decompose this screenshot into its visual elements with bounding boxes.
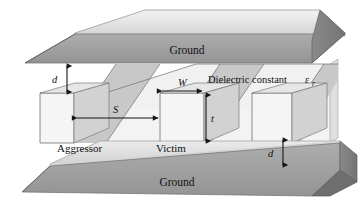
- s-label: S: [113, 104, 119, 115]
- w-label: W: [178, 77, 188, 88]
- victim-label: Victim: [156, 142, 186, 154]
- ground-plane-top: Ground: [25, 10, 345, 63]
- ground-top-label: Ground: [169, 44, 204, 56]
- d-bottom-label: d: [268, 148, 274, 159]
- epsilon-subscript-r: r: [312, 79, 315, 88]
- victim-front-face: [160, 93, 204, 143]
- dielectric-constant-label: Dielectric constant: [208, 74, 287, 85]
- third-front-face: [252, 93, 292, 143]
- aggressor-front-face: [40, 93, 74, 143]
- ground-top-upper-face: [75, 10, 345, 36]
- d-top-label: d: [52, 74, 58, 85]
- figure-container: Ground: [0, 0, 363, 201]
- ground-bottom-label: Ground: [159, 176, 194, 188]
- stripline-diagram: Ground: [0, 0, 363, 201]
- aggressor-label: Aggressor: [57, 142, 103, 154]
